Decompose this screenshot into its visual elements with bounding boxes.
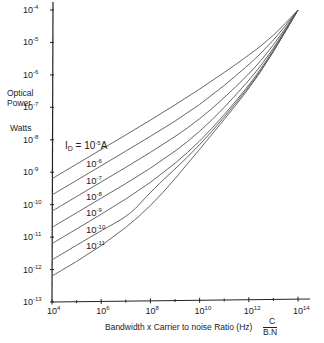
x-tick-label: 106	[96, 305, 109, 316]
y-tick-label: 10-5	[23, 36, 38, 47]
formula-numerator: C	[269, 316, 275, 326]
y-tick-label: 10-9	[23, 166, 38, 177]
y-axis-label-power: Power	[7, 98, 31, 108]
series-label: 10-8	[86, 191, 102, 202]
y-tick-label: 10-8	[23, 134, 38, 145]
series-label: 10-9	[86, 207, 102, 218]
series-label: 10-7	[86, 175, 102, 186]
y-tick-label: 10-6	[23, 69, 38, 80]
series-curve	[52, 10, 298, 260]
series-curve	[52, 10, 298, 179]
chart-plot-area	[0, 0, 324, 343]
y-tick-label: 10-12	[23, 264, 42, 275]
x-tick-label: 104	[47, 305, 60, 316]
y-tick-label: 10-10	[23, 199, 42, 210]
x-axis	[52, 299, 310, 302]
series-label: 10-6	[86, 158, 102, 169]
y-tick-label: 10-4	[23, 4, 38, 15]
formula-denominator: B.N	[263, 327, 277, 337]
x-tick-label: 1010	[195, 305, 212, 316]
series-label-id: ID = 10-5A	[65, 140, 107, 152]
x-axis-label: Bandwidth x Carrier to noise Ratio (Hz)	[105, 322, 252, 332]
y-axis	[52, 2, 53, 302]
series-label: 10-11	[86, 240, 105, 251]
x-tick-label: 1012	[244, 305, 261, 316]
x-tick-label: 108	[145, 305, 158, 316]
x-tick-label: 1014	[293, 305, 310, 316]
series-label: 10-10	[86, 224, 105, 235]
y-tick-label: 10-13	[23, 296, 42, 307]
y-axis-label-optical: Optical	[7, 88, 33, 98]
y-tick-label: 10-11	[23, 231, 41, 242]
y-axis-label-watts: Watts	[10, 123, 31, 133]
